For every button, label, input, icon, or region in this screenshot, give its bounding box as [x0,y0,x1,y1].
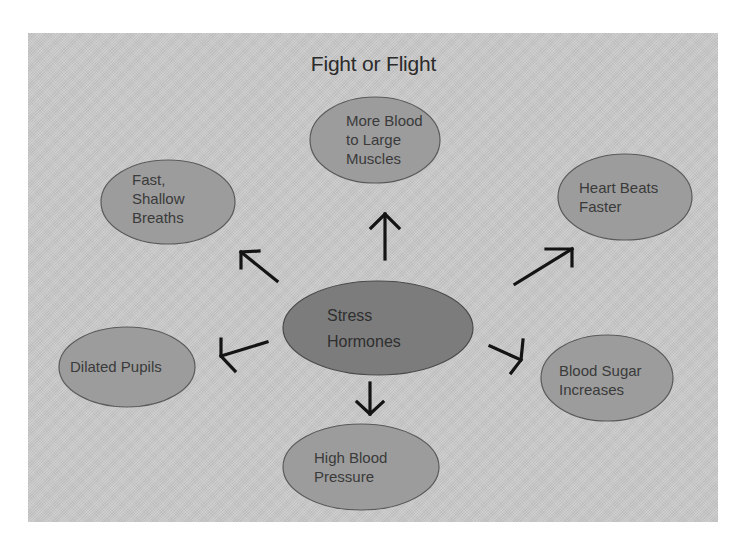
label-pupils: Dilated Pupils [70,357,162,376]
arrow-left-icon [221,339,267,371]
label-heart: Heart Beats Faster [579,178,658,216]
arrow-up-left-icon [241,251,277,281]
label-pressure: High Blood Pressure [314,448,387,486]
label-stress-hormones: Stress Hormones [327,303,401,355]
label-breaths: Fast, Shallow Breaths [132,170,185,227]
arrow-up-icon [371,214,399,259]
label-sugar: Blood Sugar Increases [559,361,642,399]
arrow-down-icon [357,383,383,414]
arrow-down-right-icon [490,340,523,373]
arrow-up-right-icon [515,249,572,284]
label-muscles: More Blood to Large Muscles [346,111,423,168]
